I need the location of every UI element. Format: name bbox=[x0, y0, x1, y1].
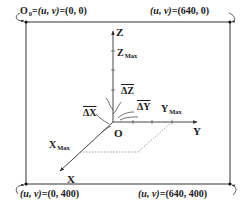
corner-dot-top-right bbox=[228, 20, 231, 23]
corner-label-bottom-right: (u, v)=(640, 400) bbox=[138, 189, 207, 199]
delta-z-label: ΔZ bbox=[121, 86, 134, 96]
xy-plane-extent bbox=[80, 122, 172, 152]
delta-x-curve bbox=[96, 114, 109, 124]
origin-label: O bbox=[114, 128, 123, 139]
corner-label-top-left: O0=(u, v)=(0, 0) bbox=[20, 6, 87, 18]
delta-y-label: ΔY bbox=[137, 102, 151, 112]
z-max-label: ZMax bbox=[117, 48, 137, 60]
image-frame bbox=[26, 22, 230, 184]
corner-label-top-right: (u, v)=(640, 0) bbox=[150, 6, 209, 16]
pointer-arrow-bottom-right bbox=[232, 185, 236, 195]
x-max-label: XMax bbox=[49, 140, 70, 152]
corner-dot-bottom-left bbox=[24, 182, 27, 185]
y-max-label: YMax bbox=[161, 104, 182, 116]
delta-x-label: ΔX bbox=[83, 108, 97, 118]
origin-o0: O0 bbox=[20, 5, 32, 16]
corner-dot-top-left bbox=[24, 20, 27, 23]
x-axis-label: X bbox=[67, 174, 75, 185]
delta-z-curve bbox=[106, 98, 113, 110]
delta-y-curve-2 bbox=[120, 117, 138, 120]
corner-dot-bottom-right bbox=[228, 182, 231, 185]
z-axis-label: Z bbox=[116, 27, 123, 38]
corner-label-bottom-left: (u, v)=(0, 400) bbox=[20, 189, 79, 199]
coordinate-diagram bbox=[0, 0, 247, 211]
delta-z-curve-2 bbox=[113, 102, 121, 114]
delta-x-curve-2 bbox=[101, 126, 111, 133]
y-axis-label: Y bbox=[193, 126, 201, 137]
